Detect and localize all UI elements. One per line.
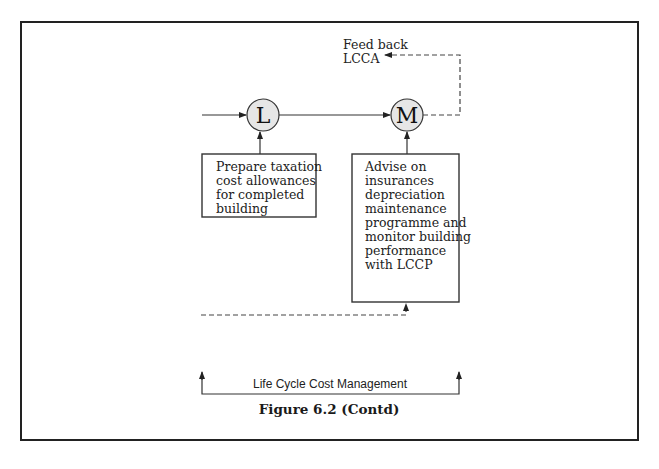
box-L-line-3: for completed [216, 187, 304, 202]
life-cycle-bracket: Life Cycle Cost Management [202, 372, 459, 394]
box-M-line-4: maintenance [365, 201, 447, 216]
box-M-line-2: insurances [365, 173, 434, 188]
feedback-label-line-2: LCCA [343, 51, 380, 66]
box-L-line-1: Prepare taxation [216, 159, 322, 174]
lower-dashed-path [201, 304, 406, 315]
box-M-line-8: with LCCP [365, 257, 433, 272]
box-L-line-2: cost allowances [216, 173, 316, 188]
feedback-label-line-1: Feed back [343, 37, 408, 52]
bracket-label: Life Cycle Cost Management [253, 377, 408, 391]
figure-caption: Figure 6.2 (Contd) [259, 401, 400, 417]
box-M-line-7: performance [365, 243, 446, 258]
box-M: Advise on insurances depreciation mainte… [352, 154, 471, 302]
box-M-line-6: monitor building [365, 229, 471, 244]
box-L-line-4: building [216, 201, 268, 216]
node-M-label: M [396, 103, 419, 128]
diagram-canvas: L M Prepare taxation cost allowances for… [0, 0, 659, 469]
box-L: Prepare taxation cost allowances for com… [202, 154, 322, 217]
box-M-line-3: depreciation [365, 187, 445, 202]
box-M-line-1: Advise on [364, 159, 426, 174]
node-L: L [247, 99, 279, 131]
node-L-label: L [256, 103, 271, 128]
box-M-line-5: programme and [365, 215, 467, 230]
node-M: M [391, 99, 423, 131]
feedback-label: Feed back LCCA [343, 37, 408, 66]
